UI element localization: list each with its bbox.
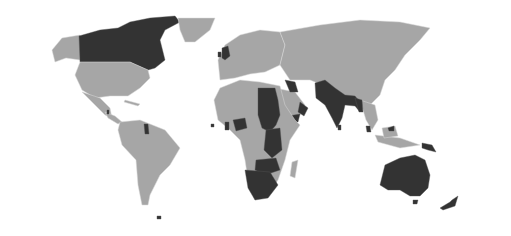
region-malaysia	[366, 126, 371, 132]
region-guyana	[144, 124, 149, 134]
region-sri-lanka	[338, 125, 341, 130]
world-map	[0, 0, 511, 236]
region-greenland	[178, 18, 215, 42]
region-alaska	[52, 35, 80, 62]
region-belize	[107, 110, 109, 114]
region-australia	[380, 155, 430, 196]
region-new-zealand	[440, 196, 458, 210]
region-caribbean	[124, 100, 140, 106]
region-southeast-asia	[360, 100, 378, 130]
region-ireland	[218, 52, 221, 57]
region-tasmania	[413, 200, 418, 204]
region-ghana	[225, 122, 229, 130]
region-madagascar	[290, 160, 298, 178]
region-papua-new-guinea	[422, 143, 436, 152]
region-falklands	[157, 216, 161, 219]
region-indonesia	[375, 135, 420, 148]
region-sierra-leone	[211, 124, 214, 127]
region-usa	[75, 62, 150, 98]
